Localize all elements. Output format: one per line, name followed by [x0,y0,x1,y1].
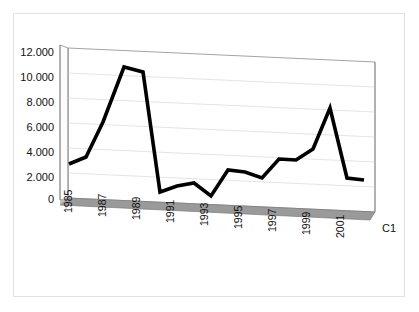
series-label-c1: C1 [382,222,396,234]
y-tick-label-4000: 4.000 [8,146,54,158]
chart-3d-line: 12.000 10.000 8.000 6.000 4.000 2.000 0 … [0,0,419,312]
x-tick-label-2001: 2001 [334,215,346,238]
y-tick-label-6000: 6.000 [8,121,54,133]
x-tick-label-1985: 1985 [62,190,74,213]
y-tick-label-8000: 8.000 [8,96,54,108]
plot-left-wall [60,45,68,200]
x-tick-label-1995: 1995 [232,206,244,229]
x-tick-label-1993: 1993 [198,203,210,226]
x-tick-label-1997: 1997 [266,209,278,232]
x-tick-label-1989: 1989 [130,197,142,220]
y-tick-label-2000: 2.000 [8,171,54,183]
x-tick-label-1991: 1991 [164,200,176,223]
y-tick-label-10000: 10.000 [8,71,54,83]
chart-screenshot: 12.000 10.000 8.000 6.000 4.000 2.000 0 … [0,0,419,312]
chart-canvas [0,0,419,312]
y-tick-label-12000: 12.000 [8,46,54,58]
x-tick-label-1999: 1999 [300,212,312,235]
x-tick-label-1987: 1987 [96,194,108,217]
y-tick-label-0: 0 [8,193,54,205]
